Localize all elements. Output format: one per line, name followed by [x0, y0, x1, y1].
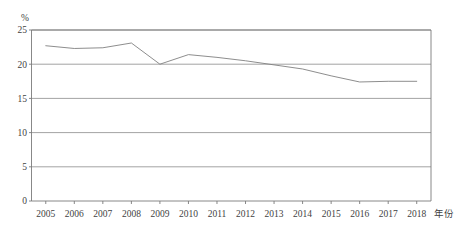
x-tick-label-2018: 2018	[407, 209, 426, 219]
x-tick-label-2013: 2013	[265, 209, 284, 219]
x-tick-label-2008: 2008	[122, 209, 141, 219]
x-tick-label-2015: 2015	[322, 209, 341, 219]
y-tick-label-0: 0	[22, 196, 27, 206]
y-tick-label-20: 20	[18, 60, 28, 70]
y-tick-label-5: 5	[22, 162, 27, 172]
x-axis-title: 年份	[434, 208, 454, 219]
y-tick-label-10: 10	[18, 128, 28, 138]
x-tick-label-2014: 2014	[293, 209, 312, 219]
x-tick-label-2006: 2006	[65, 209, 84, 219]
y-tick-label-25: 25	[18, 25, 28, 35]
y-axis-unit-label: %	[21, 13, 29, 23]
chart-figure: 0510152025 20052006200720082009201020112…	[0, 0, 456, 229]
y-tick-label-15: 15	[18, 94, 28, 104]
x-tick-label-2010: 2010	[179, 209, 198, 219]
x-tick-label-2009: 2009	[150, 209, 169, 219]
line-chart: 0510152025 20052006200720082009201020112…	[0, 0, 456, 229]
x-tick-label-2005: 2005	[36, 209, 55, 219]
x-tick-label-2011: 2011	[208, 209, 227, 219]
x-tick-label-2012: 2012	[236, 209, 255, 219]
x-tick-label-2017: 2017	[379, 209, 398, 219]
x-tick-label-2016: 2016	[350, 209, 369, 219]
chart-background	[0, 0, 456, 229]
x-tick-label-2007: 2007	[93, 209, 112, 219]
